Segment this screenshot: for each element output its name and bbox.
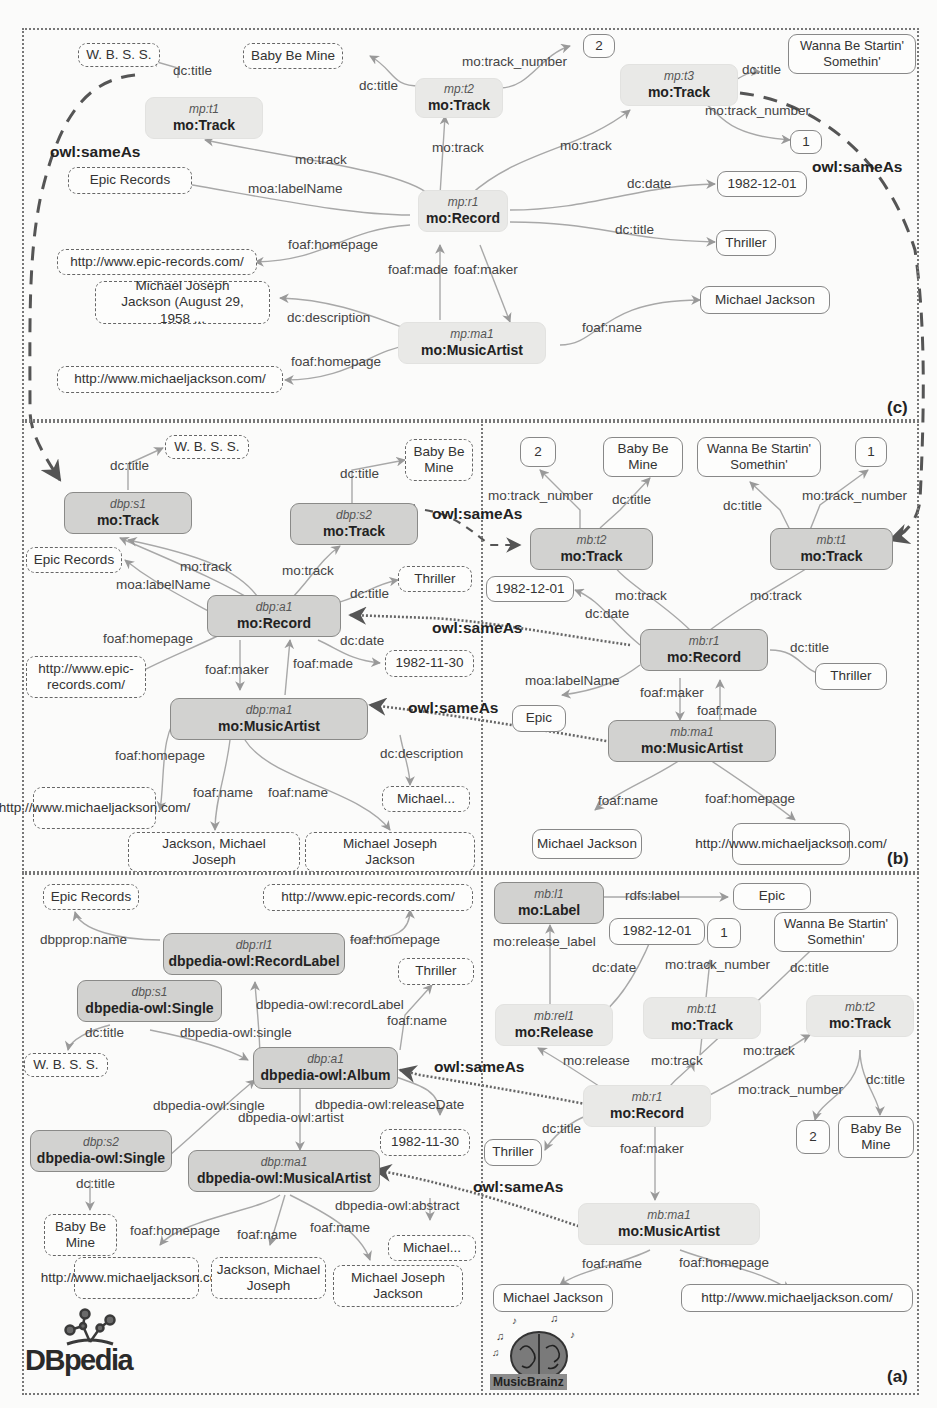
edge-label: mo:track_number bbox=[665, 957, 770, 972]
node-mb-r1[interactable]: mb:r1 mo:Record bbox=[583, 1085, 711, 1127]
edge-label: mo:track bbox=[743, 1043, 795, 1058]
node-dbp-s2[interactable]: dbp:s2 dbpedia-owl:Single bbox=[30, 1130, 172, 1172]
node-dbp-rl1[interactable]: dbp:rl1 dbpedia-owl:RecordLabel bbox=[163, 933, 345, 975]
musicbrainz-brain-icon: ♫ ♪ ♫ ♪ ♫ bbox=[490, 1312, 590, 1378]
same-as-label: owl:sameAs bbox=[50, 143, 140, 161]
node-class: mo:Track bbox=[807, 1015, 913, 1031]
edge-label: foaf:maker bbox=[454, 262, 518, 277]
node-dbp-s2[interactable]: dbp:s2 mo:Track bbox=[290, 503, 418, 545]
literal-track-1: 1 bbox=[855, 437, 887, 467]
node-mp-r1[interactable]: mp:r1 mo:Record bbox=[418, 190, 508, 232]
node-mb-l1[interactable]: mb:l1 mo:Label bbox=[494, 882, 604, 924]
edge-label: mo:track_number bbox=[488, 488, 593, 503]
node-id: dbp:s2 bbox=[291, 509, 417, 523]
literal-michael-jackson: Michael Jackson bbox=[700, 286, 830, 314]
node-mp-t2[interactable]: mp:t2 mo:Track bbox=[415, 78, 503, 118]
literal-wanna-be: Wanna Be Startin' Somethin' bbox=[774, 912, 898, 952]
node-id: mp:ma1 bbox=[399, 328, 545, 342]
node-dbp-a1[interactable]: dbp:a1 dbpedia-owl:Album bbox=[253, 1047, 398, 1089]
node-class: mo:MusicArtist bbox=[399, 342, 545, 358]
literal-epic-url: http://www.epic-records.com/ bbox=[263, 884, 473, 911]
node-mb-t2[interactable]: mb:t2 mo:Track bbox=[806, 995, 914, 1037]
literal-wbss: W. B. S. S. bbox=[24, 1053, 108, 1077]
literal-epic: Epic bbox=[512, 705, 566, 732]
edge-label: rdfs:label bbox=[625, 888, 680, 903]
literal-thriller: Thriller bbox=[398, 566, 472, 592]
node-dbp-s1[interactable]: dbp:s1 mo:Track bbox=[64, 492, 192, 534]
node-mp-t3[interactable]: mp:t3 mo:Track bbox=[620, 64, 738, 106]
node-dbp-a1[interactable]: dbp:a1 mo:Record bbox=[207, 595, 341, 637]
node-class: mo:Track bbox=[416, 97, 502, 113]
node-class: dbpedia-owl:Album bbox=[254, 1067, 397, 1083]
svg-text:♫: ♫ bbox=[550, 1312, 558, 1324]
edge-label: dbpprop:name bbox=[40, 932, 127, 947]
edge-label: foaf:homepage bbox=[130, 1223, 220, 1238]
literal-name-2: Michael Joseph Jackson bbox=[305, 832, 475, 872]
panel-label-b: (b) bbox=[887, 849, 909, 869]
node-dbp-s1[interactable]: dbp:s1 dbpedia-owl:Single bbox=[77, 980, 222, 1022]
literal-michael-abstract: Michael... bbox=[388, 1235, 476, 1261]
literal-michael-jackson: Michael Jackson bbox=[493, 1284, 613, 1312]
literal-wanna-be: Wanna Be Startin' Somethin' bbox=[697, 437, 821, 477]
node-class: mo:Track bbox=[621, 84, 737, 100]
edge-label: foaf:homepage bbox=[103, 631, 193, 646]
edge-label: foaf:made bbox=[293, 656, 353, 671]
node-mb-ma1[interactable]: mb:ma1 mo:MusicArtist bbox=[608, 720, 776, 762]
edge-label: dbpedia-owl:releaseDate bbox=[315, 1097, 464, 1112]
node-class: mo:Track bbox=[291, 523, 417, 539]
same-as-label: owl:sameAs bbox=[432, 619, 522, 637]
edge-label: dc:title bbox=[110, 458, 149, 473]
node-id: mp:t2 bbox=[416, 83, 502, 97]
node-mb-t2[interactable]: mb:t2 mo:Track bbox=[530, 528, 653, 570]
node-dbp-ma1[interactable]: dbp:ma1 mo:MusicArtist bbox=[170, 698, 368, 740]
same-as-label: owl:sameAs bbox=[432, 505, 522, 523]
svg-text:♫: ♫ bbox=[496, 1330, 504, 1342]
node-id: mb:ma1 bbox=[579, 1209, 759, 1223]
edge-label: dbpedia-owl:recordLabel bbox=[256, 997, 404, 1012]
edge-label: dbpedia-owl:abstract bbox=[335, 1198, 460, 1213]
svg-text:♫: ♫ bbox=[492, 1347, 500, 1358]
node-class: mo:Track bbox=[65, 512, 191, 528]
edge-label: mo:release bbox=[563, 1053, 630, 1068]
node-class: mo:Label bbox=[495, 902, 603, 918]
literal-track-2: 2 bbox=[520, 437, 556, 467]
edge-label: mo:track bbox=[651, 1053, 703, 1068]
node-class: mo:MusicArtist bbox=[171, 718, 367, 734]
edge-label: dc:title bbox=[76, 1176, 115, 1191]
edge-label: dc:title bbox=[615, 222, 654, 237]
node-mp-t1[interactable]: mp:t1 mo:Track bbox=[145, 97, 263, 139]
node-id: mp:r1 bbox=[419, 196, 507, 210]
edge-label: dc:title bbox=[542, 1121, 581, 1136]
literal-mj-url: http://www.michaeljackson.com/ bbox=[57, 366, 283, 393]
node-mb-rel1[interactable]: mb:rel1 mo:Release bbox=[495, 1004, 613, 1046]
literal-wanna-be: Wanna Be Startin' Somethin' bbox=[788, 34, 916, 74]
edge-label: foaf:maker bbox=[205, 662, 269, 677]
node-mb-t1[interactable]: mb:t1 mo:Track bbox=[643, 997, 761, 1039]
edge-label: foaf:name bbox=[598, 793, 658, 808]
node-mb-t1[interactable]: mb:t1 mo:Track bbox=[770, 528, 893, 570]
literal-track-2: 2 bbox=[796, 1120, 830, 1154]
edge-label: foaf:name bbox=[268, 785, 328, 800]
node-dbp-ma1[interactable]: dbp:ma1 dbpedia-owl:MusicalArtist bbox=[188, 1150, 380, 1192]
edge-label: foaf:maker bbox=[620, 1141, 684, 1156]
node-id: mb:l1 bbox=[495, 888, 603, 902]
edge-label: dc:date bbox=[340, 633, 384, 648]
node-id: mb:t2 bbox=[531, 534, 652, 548]
node-class: mo:Record bbox=[419, 210, 507, 226]
node-id: dbp:s1 bbox=[65, 498, 191, 512]
node-mb-ma1[interactable]: mb:ma1 mo:MusicArtist bbox=[578, 1203, 760, 1245]
node-mp-ma1[interactable]: mp:ma1 mo:MusicArtist bbox=[398, 322, 546, 364]
literal-date: 1982-11-30 bbox=[380, 1129, 470, 1156]
node-mb-r1[interactable]: mb:r1 mo:Record bbox=[640, 629, 768, 671]
literal-date: 1982-12-01 bbox=[486, 576, 574, 602]
edge-label: dc:title bbox=[359, 78, 398, 93]
edge-label: mo:release_label bbox=[493, 934, 596, 949]
node-id: mb:ma1 bbox=[609, 726, 775, 740]
panel-label-a: (a) bbox=[887, 1367, 908, 1387]
musicbrainz-logo-text: MusicBrainz bbox=[490, 1374, 567, 1390]
edge-label: mo:track bbox=[180, 559, 232, 574]
edge-label: foaf:maker bbox=[640, 685, 704, 700]
node-id: mb:t1 bbox=[644, 1003, 760, 1017]
node-class: dbpedia-owl:MusicalArtist bbox=[189, 1170, 379, 1186]
node-class: mo:Record bbox=[584, 1105, 710, 1121]
